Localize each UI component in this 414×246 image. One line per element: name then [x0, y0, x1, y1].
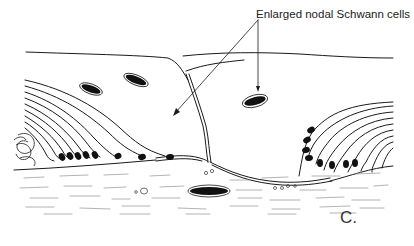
- coiled-fiber-left: [14, 133, 35, 166]
- callout-arrows: [176, 20, 258, 112]
- node-junction-left-inner: [156, 159, 202, 161]
- mitochondrion-1: [78, 80, 104, 98]
- mitochondrion-axon: [188, 185, 230, 197]
- schwann-cell-boundary-left-inner: [189, 74, 211, 162]
- schwann-cell-boundary-right: [186, 60, 244, 71]
- mitochondrion-3: [241, 92, 269, 110]
- outer-membrane-right: [183, 53, 393, 58]
- outer-membrane-left: [26, 52, 188, 80]
- node-junction-right-inner: [212, 165, 332, 185]
- schwann-cell-boundary-left-outer: [186, 74, 208, 162]
- panel-label: C.: [340, 208, 357, 228]
- diagram-canvas: Enlarged nodal Schwann cells C.: [0, 0, 414, 246]
- mitochondrion-2: [122, 70, 150, 89]
- callout-label: Enlarged nodal Schwann cells: [256, 8, 410, 20]
- axon-surface-left: [14, 160, 156, 170]
- mitochondria: [78, 70, 269, 197]
- terminal-loops-left: [57, 150, 174, 162]
